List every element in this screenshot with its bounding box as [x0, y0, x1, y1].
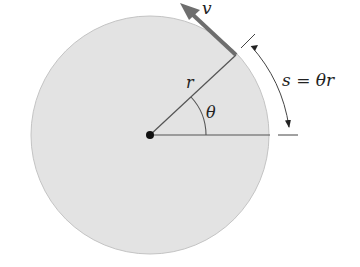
radius-label: r: [186, 73, 195, 92]
center-point: [146, 131, 154, 139]
velocity-label: v: [202, 0, 212, 18]
circular-motion-diagram: v r θ s = θr: [0, 0, 360, 267]
angle-label: θ: [206, 103, 216, 122]
arc-length-label: s = θr: [282, 70, 335, 90]
